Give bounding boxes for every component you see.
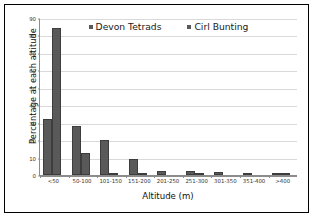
y-tick-label-60: 60 — [29, 68, 36, 74]
bar-devon-tetrads — [43, 119, 52, 175]
x-tick-label: 101-150 — [96, 178, 125, 184]
bar-cirl-bunting — [81, 153, 90, 175]
bar-devon-tetrads — [214, 172, 223, 175]
x-tick-label: 151-200 — [125, 178, 154, 184]
x-tick-label: 50-100 — [68, 178, 97, 184]
y-tick-label-70: 70 — [29, 51, 36, 57]
bar-group — [69, 19, 98, 175]
y-tick-label-20: 20 — [29, 138, 36, 144]
y-tick-label-10: 10 — [29, 156, 36, 162]
plot-area: 0102030405060708090 Devon TetradsCirl Bu… — [39, 19, 297, 176]
y-tick-label-0: 0 — [33, 173, 36, 179]
bar-devon-tetrads — [243, 173, 252, 175]
bar-cirl-bunting — [52, 28, 61, 175]
y-tick-label-30: 30 — [29, 121, 36, 127]
bar-devon-tetrads — [129, 159, 138, 175]
y-tick-label-80: 80 — [29, 33, 36, 39]
bar-devon-tetrads — [157, 171, 166, 175]
bar-group — [240, 19, 269, 175]
x-tick-label: 301-350 — [211, 178, 240, 184]
bar-group — [40, 19, 69, 175]
y-tick-label-50: 50 — [29, 86, 36, 92]
gridline-0 — [40, 176, 297, 177]
x-axis-tick-labels: <5050-100101-150151-200201-250251-300301… — [39, 178, 297, 184]
bar-group — [126, 19, 155, 175]
x-tick-label: 351-400 — [240, 178, 269, 184]
x-tick-label: 201-250 — [154, 178, 183, 184]
bar-cirl-bunting — [195, 173, 204, 175]
bar-cirl-bunting — [281, 173, 290, 175]
x-tick-label: 251-300 — [182, 178, 211, 184]
bar-groups — [40, 19, 297, 175]
x-axis-title: Altitude (m) — [39, 191, 297, 201]
bar-devon-tetrads — [100, 140, 109, 175]
bar-group — [211, 19, 240, 175]
x-tick-label: <50 — [39, 178, 68, 184]
x-tick-label: >400 — [268, 178, 297, 184]
bar-group — [154, 19, 183, 175]
y-tick-label-40: 40 — [29, 103, 36, 109]
bar-cirl-bunting — [109, 173, 118, 175]
bar-group — [97, 19, 126, 175]
bar-cirl-bunting — [138, 173, 147, 175]
chart-figure: Percentage at each altitude 010203040506… — [4, 4, 309, 213]
y-tick-label-90: 90 — [29, 16, 36, 22]
bar-devon-tetrads — [186, 171, 195, 175]
bar-devon-tetrads — [72, 126, 81, 175]
bar-devon-tetrads — [272, 173, 281, 175]
bar-group — [183, 19, 212, 175]
bar-group — [269, 19, 298, 175]
